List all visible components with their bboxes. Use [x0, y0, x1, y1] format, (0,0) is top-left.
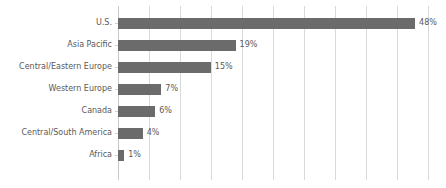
bar-row[interactable]: 6%	[118, 100, 424, 122]
bar-row[interactable]: 7%	[118, 78, 424, 100]
category-label: U.S.	[96, 12, 112, 34]
bar-row[interactable]: 15%	[118, 56, 424, 78]
bar[interactable]	[118, 84, 161, 95]
bar-value-label: 6%	[159, 107, 172, 115]
category-label: Central/South America	[21, 122, 112, 144]
category-label: Canada	[82, 100, 112, 122]
bar[interactable]	[118, 106, 155, 117]
axis-tick	[115, 89, 118, 90]
bar-row[interactable]: 19%	[118, 34, 424, 56]
bar[interactable]	[118, 150, 124, 161]
bar-rows: 48%19%15%7%6%4%1%	[118, 6, 424, 180]
category-label: Central/Eastern Europe	[19, 56, 112, 78]
axis-tick	[115, 155, 118, 156]
bar[interactable]	[118, 40, 236, 51]
bar-row[interactable]: 48%	[118, 12, 424, 34]
category-label: Africa	[89, 144, 112, 166]
bar-value-label: 4%	[147, 129, 160, 137]
bar[interactable]	[118, 18, 415, 29]
bar-row[interactable]: 4%	[118, 122, 424, 144]
category-axis-labels: U.S.Asia PacificCentral/Eastern EuropeWe…	[0, 6, 112, 180]
bar-value-label: 48%	[419, 19, 437, 27]
axis-tick	[115, 133, 118, 134]
bar-row[interactable]: 1%	[118, 144, 424, 166]
category-label: Asia Pacific	[67, 34, 112, 56]
gridline-50	[428, 6, 429, 180]
bar-value-label: 1%	[128, 151, 141, 159]
bar-chart: U.S.Asia PacificCentral/Eastern EuropeWe…	[0, 0, 446, 188]
bar-value-label: 15%	[215, 63, 233, 71]
plot-area: 48%19%15%7%6%4%1%	[118, 6, 424, 180]
bar-value-label: 19%	[240, 41, 258, 49]
bar[interactable]	[118, 128, 143, 139]
axis-tick	[115, 111, 118, 112]
axis-tick	[115, 23, 118, 24]
axis-tick	[115, 45, 118, 46]
axis-tick	[115, 67, 118, 68]
bar[interactable]	[118, 62, 211, 73]
category-label: Western Europe	[49, 78, 112, 100]
bar-value-label: 7%	[165, 85, 178, 93]
